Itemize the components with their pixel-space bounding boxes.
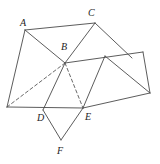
edge-C-H xyxy=(95,23,132,58)
edge-B-E xyxy=(65,63,83,108)
edge-K-J xyxy=(105,56,150,93)
vertex-label-b: B xyxy=(61,42,67,52)
edge-B-D xyxy=(43,63,65,110)
edge-I-J xyxy=(143,52,150,93)
edge-K-E xyxy=(83,56,105,108)
vertex-label-a: A xyxy=(20,18,26,28)
vertex-label-e: E xyxy=(85,112,91,122)
solid-edge-group xyxy=(7,23,150,140)
vertex-label-d: D xyxy=(37,113,44,123)
vertex-label-f: F xyxy=(57,146,63,156)
edge-A-B xyxy=(25,30,65,63)
geometry-figure: A B C D E F xyxy=(0,0,160,164)
edge-E-J xyxy=(83,93,150,108)
edge-F-E xyxy=(61,108,83,140)
edge-D-F xyxy=(43,110,61,140)
edge-C-B xyxy=(65,23,95,63)
vertex-label-c: C xyxy=(88,8,95,18)
edge-G-E xyxy=(7,107,83,108)
edge-A-C xyxy=(25,23,95,30)
dashed-edge-group xyxy=(7,63,83,108)
